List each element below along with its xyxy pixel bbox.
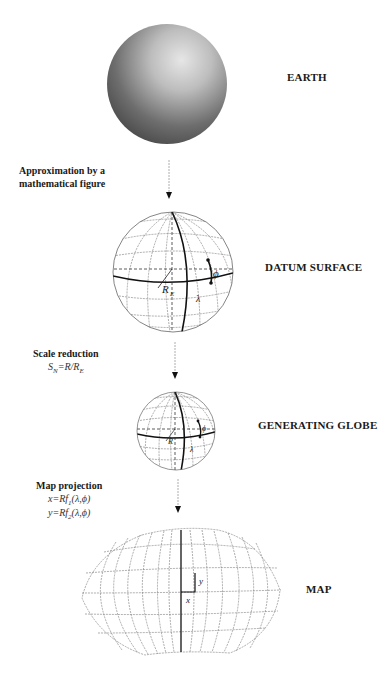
transition-title-line2: mathematical figure bbox=[19, 177, 105, 190]
map-projection: x y bbox=[82, 528, 281, 655]
formula-part: (λ,ϕ) bbox=[72, 507, 91, 518]
transition-title-line1: Approximation by a bbox=[19, 164, 105, 177]
formula-part: (λ,ϕ) bbox=[72, 493, 91, 504]
stage-label-earth: EARTH bbox=[287, 71, 327, 83]
svg-text:E: E bbox=[169, 290, 175, 298]
arrow-down-icon bbox=[172, 342, 178, 379]
svg-text:ϕ: ϕ bbox=[202, 424, 206, 433]
stage-label-datum-surface: DATUM SURFACE bbox=[265, 261, 362, 273]
formula-part: x=Rf bbox=[48, 493, 68, 504]
datum-surface-globe: R E ϕ λ bbox=[113, 212, 233, 332]
radius-label: R bbox=[161, 283, 169, 295]
scale-formula: SN=R/RE bbox=[48, 361, 84, 377]
arrow-down-icon bbox=[175, 479, 181, 513]
svg-text:x: x bbox=[185, 595, 190, 605]
generating-globe: R ϕ λ bbox=[137, 392, 215, 471]
svg-text:λ: λ bbox=[195, 293, 201, 304]
diagram-canvas: R E ϕ λ R bbox=[0, 0, 386, 674]
earth-sphere bbox=[107, 24, 227, 144]
arrow-down-icon bbox=[166, 160, 172, 199]
transition-approximation: Approximation by a mathematical figure bbox=[19, 164, 105, 190]
formula-part: =R/R bbox=[58, 361, 80, 372]
svg-text:ϕ: ϕ bbox=[213, 267, 219, 279]
transition-map-projection: Map projection bbox=[36, 479, 102, 492]
stage-label-generating-globe: GENERATING GLOBE bbox=[258, 419, 377, 431]
projection-formula-y: y=Rf2(λ,ϕ) bbox=[48, 507, 90, 523]
svg-text:y: y bbox=[198, 576, 203, 586]
svg-text:λ: λ bbox=[189, 445, 194, 454]
svg-text:R: R bbox=[167, 437, 173, 446]
formula-part: y=Rf bbox=[48, 507, 68, 518]
formula-sub: E bbox=[79, 367, 83, 375]
transition-scale-reduction: Scale reduction bbox=[33, 347, 99, 360]
stage-label-map: MAP bbox=[306, 583, 332, 595]
